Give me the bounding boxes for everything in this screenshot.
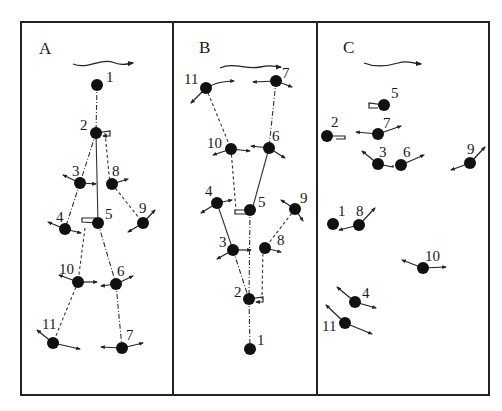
node-label: 11 xyxy=(184,71,198,87)
node-a-8 xyxy=(106,178,118,190)
figure-canvas: A xyxy=(0,0,502,411)
node-label: 2 xyxy=(331,114,339,130)
panel-c: C xyxy=(321,38,485,334)
node-label: 8 xyxy=(356,203,364,219)
node-b-10 xyxy=(225,143,237,155)
node-c-1 xyxy=(327,218,339,230)
node-c-9 xyxy=(464,157,476,169)
node-label: 6 xyxy=(117,263,125,279)
node-label: 7 xyxy=(282,65,290,81)
flow-right-arrow-icon xyxy=(220,66,281,68)
node-a-6 xyxy=(110,278,122,290)
node-c-2 xyxy=(321,130,333,142)
node-label: 11 xyxy=(42,316,56,332)
node-a-9 xyxy=(137,217,149,229)
node-label: 9 xyxy=(467,141,475,157)
node-label: 1 xyxy=(106,69,114,85)
node-a-7 xyxy=(116,342,128,354)
node-a-10 xyxy=(72,276,84,288)
node-label: 4 xyxy=(362,285,370,301)
node-a-5 xyxy=(92,217,104,229)
panel-a: A xyxy=(37,39,155,354)
panel-label-b: B xyxy=(199,38,210,57)
node-label: 1 xyxy=(257,332,265,348)
node-labels-c: 5 7 2 3 6 9 1 8 10 4 11 xyxy=(322,85,475,334)
panel-b: B xyxy=(184,38,308,355)
node-label: 5 xyxy=(105,206,113,222)
node-label: 8 xyxy=(112,163,120,179)
panel-label-c: C xyxy=(343,38,354,57)
node-label: 5 xyxy=(391,85,399,101)
node-label: 4 xyxy=(56,209,64,225)
node-label: 6 xyxy=(403,144,411,160)
node-a-1 xyxy=(91,79,103,91)
panel-label-a: A xyxy=(39,39,52,58)
node-label: 9 xyxy=(300,190,308,206)
node-label: 7 xyxy=(383,115,391,131)
node-label: 10 xyxy=(207,135,222,151)
node-label: 2 xyxy=(80,117,88,133)
node-label: 5 xyxy=(258,194,266,210)
node-a-2 xyxy=(90,127,102,139)
node-label: 8 xyxy=(277,232,285,248)
node-b-4 xyxy=(211,197,223,209)
nodes-b xyxy=(200,75,301,355)
node-label: 7 xyxy=(126,327,134,343)
node-label: 3 xyxy=(379,144,387,160)
links-a xyxy=(53,85,143,348)
node-b-7 xyxy=(270,75,282,87)
flow-right-arrow-icon xyxy=(364,62,421,66)
node-label: 6 xyxy=(272,128,280,144)
flow-right-arrow-icon xyxy=(73,61,133,66)
node-b-11 xyxy=(200,82,212,94)
node-c-11 xyxy=(339,317,351,329)
node-label: 9 xyxy=(139,200,147,216)
node-b-3 xyxy=(227,244,239,256)
node-c-4 xyxy=(349,296,361,308)
node-c-5 xyxy=(378,99,390,111)
node-c-6 xyxy=(395,159,407,171)
node-labels-a: 1 2 3 8 4 5 9 10 6 11 7 xyxy=(42,69,147,343)
node-label: 4 xyxy=(205,183,213,199)
node-b-1 xyxy=(244,343,256,355)
node-label: 3 xyxy=(219,234,227,250)
node-label: 2 xyxy=(234,284,242,300)
node-label: 3 xyxy=(72,163,80,179)
node-a-11 xyxy=(47,337,59,349)
node-label: 11 xyxy=(322,318,336,334)
node-b-8 xyxy=(259,242,271,254)
node-b-5 xyxy=(244,204,256,216)
node-label: 10 xyxy=(59,261,74,277)
node-c-8 xyxy=(353,219,365,231)
node-label: 10 xyxy=(425,248,440,264)
node-b-2 xyxy=(243,293,255,305)
node-label: 1 xyxy=(338,203,346,219)
